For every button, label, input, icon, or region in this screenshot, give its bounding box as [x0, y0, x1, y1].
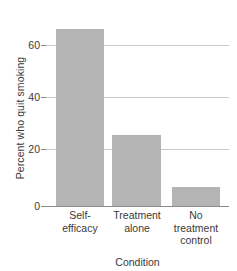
- axis-baseline: [46, 206, 229, 207]
- x-tick-line-3: control: [162, 234, 230, 247]
- y-tick-label-20: 20: [28, 144, 40, 155]
- x-axis-tick-labels: Self- efficacy Treatment alone No treatm…: [46, 209, 229, 255]
- plot-area: [46, 18, 229, 206]
- y-tick-label-0: 0: [34, 201, 40, 212]
- x-axis-title: Condition: [46, 256, 229, 268]
- bar-treatment-alone[interactable]: [112, 135, 161, 206]
- y-tick-label-60: 60: [28, 40, 40, 51]
- x-tick-line-2: treatment: [162, 222, 230, 235]
- y-axis-ticks: 0 20 40 60: [0, 18, 46, 206]
- y-tick-label-40: 40: [28, 92, 40, 103]
- bar-self-efficacy[interactable]: [56, 29, 104, 206]
- x-tick-label-no-treatment-control: No treatment control: [162, 209, 230, 247]
- bar-no-treatment-control[interactable]: [172, 187, 220, 206]
- x-tick-line-1: No: [162, 209, 230, 222]
- bar-chart-figure: Percent who quit smoking 0 20 40 60 Self…: [0, 0, 237, 271]
